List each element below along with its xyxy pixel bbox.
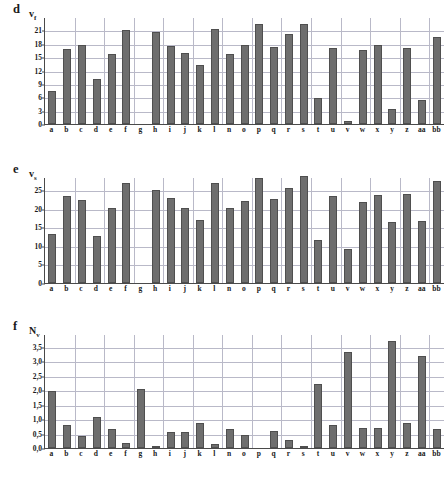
bar-i: [167, 198, 175, 283]
x-axis-tick-label: y: [385, 450, 400, 458]
x-axis-tick-label: d: [88, 126, 103, 134]
x-axis-tick-label: bb: [429, 450, 444, 458]
bar-slot: [148, 335, 163, 448]
bar-b: [63, 425, 71, 448]
x-axis-tick-label: v: [340, 450, 355, 458]
bar-bb: [433, 429, 441, 448]
x-axis-tick-label: e: [103, 450, 118, 458]
bar-slot: [89, 18, 104, 124]
bar-b: [63, 196, 71, 283]
bar-slot: [252, 178, 267, 283]
x-axis-tick-label: t: [311, 450, 326, 458]
bar-slot: [267, 335, 282, 448]
x-axis-tick-label: f: [118, 285, 133, 293]
bar-slot: [282, 18, 297, 124]
x-axis-tick-label: q: [266, 285, 281, 293]
bar-slot: [252, 18, 267, 124]
x-axis-tick-label: t: [311, 126, 326, 134]
bar-slot: [104, 18, 119, 124]
bar-j: [181, 208, 189, 283]
x-axis-tick-label: z: [400, 126, 415, 134]
bar-slot: [311, 178, 326, 283]
bar-u: [329, 196, 337, 283]
x-axis-tick-label: r: [281, 285, 296, 293]
bar-slot: [237, 18, 252, 124]
x-axis-tick-label: v: [340, 285, 355, 293]
bar-slot: [355, 335, 370, 448]
panel-f: f Nv 0,00,51,01,52,02,53,03,5 abcdefghij…: [0, 317, 447, 490]
bar-o: [241, 435, 249, 448]
x-axis-tick-label: d: [88, 285, 103, 293]
bar-bb: [433, 181, 441, 283]
bar-x: [374, 428, 382, 448]
bar-q: [270, 47, 278, 124]
bar-slot: [326, 335, 341, 448]
bar-slot: [311, 335, 326, 448]
x-axis-tick-label: o: [237, 285, 252, 293]
bar-slot: [385, 335, 400, 448]
plot-area-f: 0,00,51,01,52,02,53,03,5 abcdefghijklnop…: [44, 335, 444, 448]
bar-slot: [222, 335, 237, 448]
bar-c: [78, 200, 86, 283]
x-axis-labels-e: abcdefghijklnopqrstuvwxyzaabb: [44, 285, 444, 293]
bar-slot: [119, 18, 134, 124]
bar-slot: [400, 335, 415, 448]
bar-slot: [429, 178, 444, 283]
bar-slot: [45, 178, 60, 283]
bar-slot: [415, 18, 430, 124]
bar-slot: [400, 178, 415, 283]
x-axis-tick-label: x: [370, 126, 385, 134]
x-axis-tick-label: p: [251, 450, 266, 458]
x-axis-tick-label: n: [222, 450, 237, 458]
bar-slot: [89, 335, 104, 448]
bar-u: [329, 48, 337, 124]
bar-c: [78, 436, 86, 448]
bar-slot: [134, 18, 149, 124]
y-axis-tick-label: 1,5: [33, 402, 42, 410]
bar-slot: [415, 178, 430, 283]
bar-i: [167, 46, 175, 124]
bar-slot: [341, 335, 356, 448]
bar-slot: [75, 178, 90, 283]
bar-slot: [163, 335, 178, 448]
bar-n: [226, 208, 234, 283]
bar-slot: [193, 178, 208, 283]
y-axis-tick-label: 15: [35, 54, 43, 62]
x-axis-tick-label: r: [281, 450, 296, 458]
x-axis-tick-label: l: [207, 450, 222, 458]
bar-slot: [178, 335, 193, 448]
plot-canvas-f: 0,00,51,01,52,02,53,03,5: [44, 335, 444, 449]
y-axis-tick-label: 18: [35, 41, 43, 49]
x-axis-tick-label: a: [44, 450, 59, 458]
bar-slot: [134, 335, 149, 448]
bar-k: [196, 423, 204, 448]
bar-slot: [75, 335, 90, 448]
x-axis-tick-label: w: [355, 126, 370, 134]
y-axis-title-f: Nv: [29, 325, 40, 339]
bar-e: [108, 208, 116, 284]
x-axis-tick-label: o: [237, 450, 252, 458]
y-axis-title-e: vs: [29, 168, 37, 182]
x-axis-tick-label: aa: [414, 126, 429, 134]
y-axis-tick-label: 12: [35, 68, 43, 76]
bar-slot: [429, 335, 444, 448]
panel-letter-f: f: [13, 319, 17, 334]
x-axis-tick-label: p: [251, 285, 266, 293]
bar-e: [108, 54, 116, 124]
bar-k: [196, 65, 204, 124]
bar-w: [359, 202, 367, 283]
x-axis-tick-label: k: [192, 285, 207, 293]
bar-slot: [415, 335, 430, 448]
bar-slot: [296, 18, 311, 124]
y-axis-subscript-d: f: [34, 14, 36, 22]
y-axis-tick-label: 10: [35, 243, 43, 251]
plot-canvas-e: 0510152025: [44, 178, 444, 284]
bar-slot: [355, 178, 370, 283]
bar-a: [48, 391, 56, 448]
x-axis-tick-label: w: [355, 285, 370, 293]
bar-slot: [237, 178, 252, 283]
bar-slot: [237, 335, 252, 448]
bar-z: [403, 194, 411, 283]
x-axis-tick-label: a: [44, 126, 59, 134]
x-axis-tick-label: x: [370, 285, 385, 293]
